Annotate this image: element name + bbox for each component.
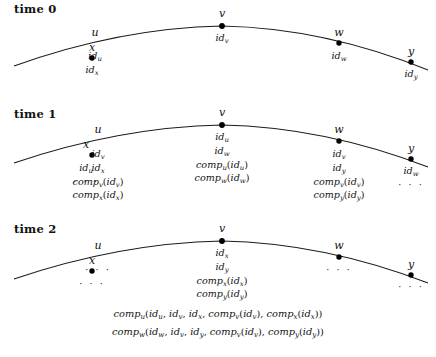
node-state-u: idu [88,50,102,64]
node-state-v: iduidwcompu(idu)compw(idw) [195,131,250,186]
state-line: compu(idu) [195,159,250,173]
panel-time-0: time 0 xidxuiduvidvwidwyidy [0,0,436,105]
node-state-w: · · · [326,264,352,276]
state-line: idv [314,148,365,162]
state-line: idu [88,50,102,64]
node-label-v: v [219,8,225,19]
state-line: idx [197,247,248,261]
node-label-w: w [334,124,343,135]
panel-time-1: time 1 xidu· · ·uidvidxcompv(idv)compx(i… [0,105,436,220]
node-state-v: idxidycompx(idx)compy(idy) [197,247,248,302]
state-line: · · · [85,264,111,276]
state-line: · · · [398,179,424,191]
node-state-y: · · · [398,281,424,293]
node-label-y: y [408,259,414,270]
node-state-w: idvidycompv(idv)compy(idy) [314,148,365,203]
state-line: idu [195,131,250,145]
node-state-u: · · · [85,264,111,276]
state-line: compy(idy) [197,288,248,302]
state-line: · · · [326,264,352,276]
panel-time-2: time 2 x· · ·u· · ·vidxidycompx(idx)comp… [0,220,436,357]
node-label-y: y [408,143,414,154]
state-line: compv(idv) [73,176,124,190]
state-line: compx(idx) [73,189,124,203]
state-line: compy(idy) [314,189,365,203]
state-line: · · · [398,281,424,293]
node-label-v: v [219,223,225,234]
state-line: compv(idv) [314,176,365,190]
state-line: idx [73,162,124,176]
node-state-w: idw [331,50,346,64]
node-label-u: u [94,124,101,135]
state-line: compx(idx) [197,275,248,289]
node-label-u: u [94,240,101,251]
state-line: idv [73,148,124,162]
state-line: compw(idw) [195,172,250,186]
node-label-v: v [219,107,225,118]
state-line: idw [398,165,424,179]
state-line: idx [85,64,98,78]
node-state-x: · · · [79,278,105,290]
node-state-u: idvidxcompv(idv)compx(idx) [73,148,124,203]
state-line: idw [195,145,250,159]
state-line: idy [404,68,417,82]
node-state-y: idy [404,68,417,82]
state-line: idw [331,50,346,64]
state-line: idv [215,32,228,46]
node-label-u: u [91,27,98,38]
node-label-w: w [334,27,343,38]
node-state-x: idx [85,64,98,78]
state-line: idy [197,261,248,275]
node-label-w: w [334,240,343,251]
aggregate-row-1: compu(idu, idv, idx, compv(idv), compx(i… [0,308,436,321]
state-line: · · · [79,278,105,290]
node-label-y: y [408,46,414,57]
node-state-v: idv [215,32,228,46]
node-state-y: idw· · · [398,165,424,191]
aggregate-row-2: compw(idw, idv, idy, compv(idv), compy(i… [0,326,436,339]
state-line: idy [314,162,365,176]
